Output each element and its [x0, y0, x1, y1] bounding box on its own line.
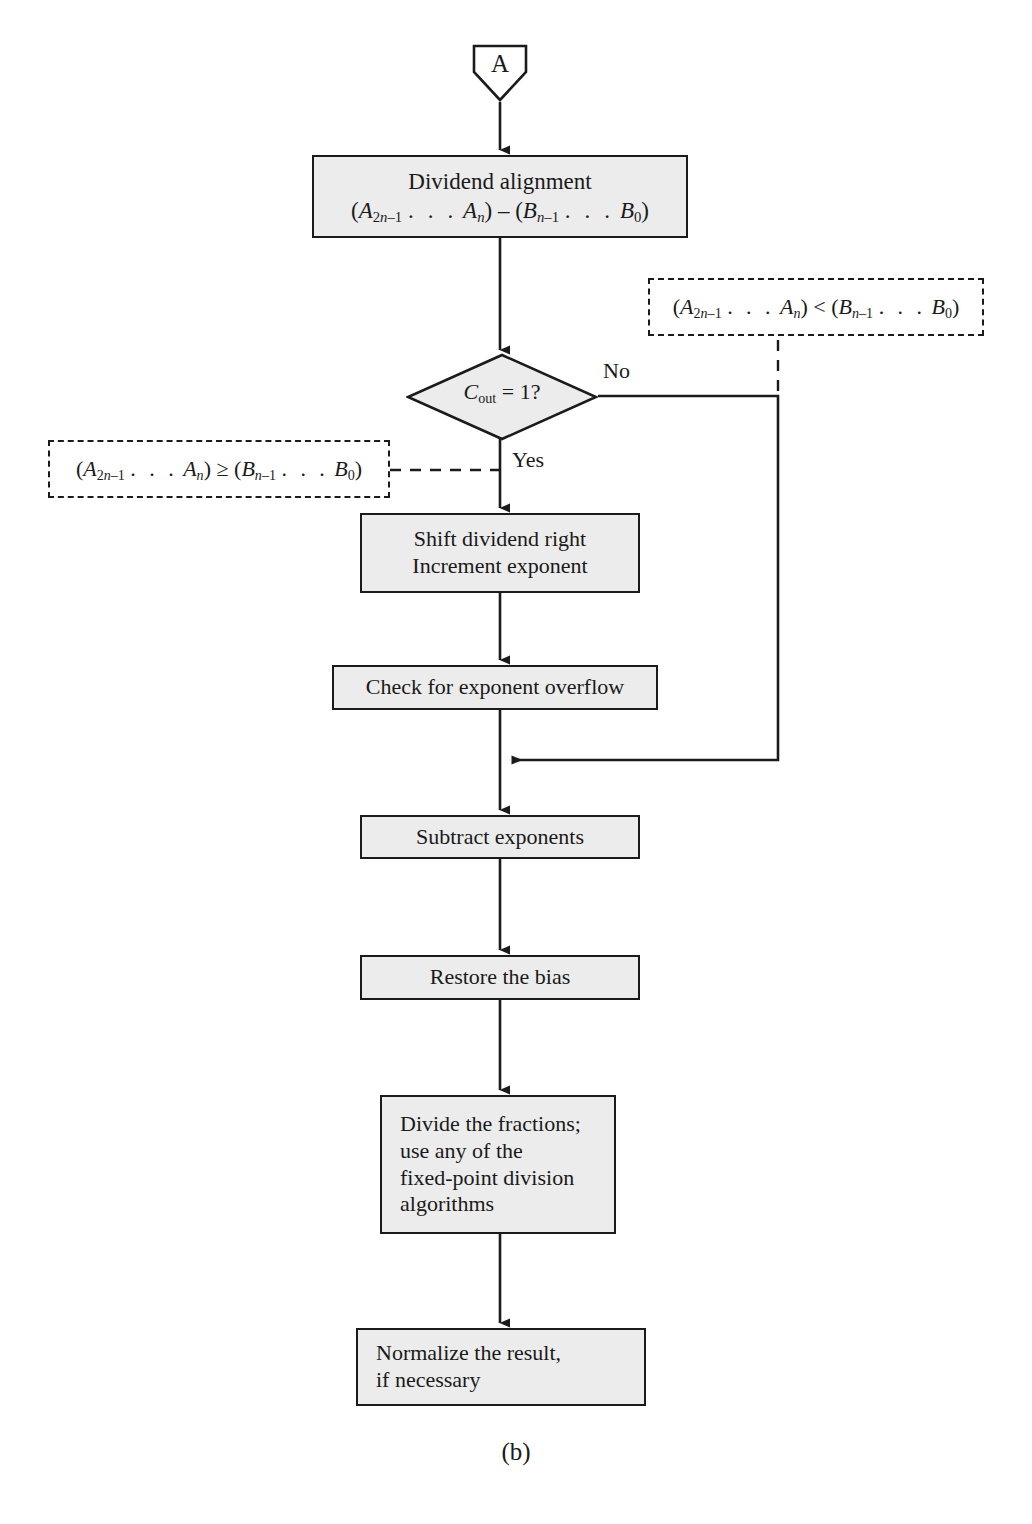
edge-label-yes: Yes [512, 447, 544, 473]
node-shift-dividend-line-2: Increment exponent [412, 553, 587, 580]
callout-condition-less-than-text: (A2n–1 . . . An) < (Bn–1 . . . B0) [673, 294, 960, 320]
node-check-overflow-label: Check for exponent overflow [366, 674, 624, 701]
node-divide-fractions-line-4: algorithms [400, 1191, 494, 1218]
figure-caption: (b) [0, 1438, 1032, 1466]
node-normalize-result-line-2: if necessary [376, 1367, 480, 1394]
connector-a[interactable]: A [472, 44, 528, 102]
node-dividend-alignment-line-1: Dividend alignment [408, 168, 591, 196]
node-check-overflow[interactable]: Check for exponent overflow [332, 665, 658, 710]
connector-a-label: A [472, 50, 528, 78]
node-shift-dividend-line-1: Shift dividend right [414, 526, 586, 553]
node-restore-bias-label: Restore the bias [430, 964, 571, 991]
node-restore-bias[interactable]: Restore the bias [360, 955, 640, 1000]
callout-condition-less-than: (A2n–1 . . . An) < (Bn–1 . . . B0) [648, 278, 984, 336]
node-normalize-result-line-1: Normalize the result, [376, 1340, 561, 1367]
node-dividend-alignment-line-2: (A2n–1 . . . An) – (Bn–1 . . . B0) [351, 197, 649, 225]
node-cout-decision[interactable]: Cout = 1? [406, 353, 598, 441]
node-divide-fractions-line-2: use any of the [400, 1138, 523, 1165]
node-dividend-alignment[interactable]: Dividend alignment (A2n–1 . . . An) – (B… [312, 155, 688, 238]
callout-condition-greater-equal-text: (A2n–1 . . . An) ≥ (Bn–1 . . . B0) [76, 456, 362, 482]
node-divide-fractions[interactable]: Divide the fractions; use any of the fix… [380, 1095, 616, 1234]
callout-condition-greater-equal: (A2n–1 . . . An) ≥ (Bn–1 . . . B0) [48, 440, 390, 498]
node-shift-dividend[interactable]: Shift dividend right Increment exponent [360, 513, 640, 593]
node-normalize-result[interactable]: Normalize the result, if necessary [356, 1328, 646, 1406]
node-divide-fractions-line-3: fixed-point division [400, 1165, 574, 1192]
node-subtract-exponents-label: Subtract exponents [416, 824, 584, 851]
edge-label-no: No [603, 358, 630, 384]
node-cout-decision-label: Cout = 1? [406, 379, 598, 405]
node-subtract-exponents[interactable]: Subtract exponents [360, 815, 640, 859]
figure-canvas: A Dividend alignment (A2n–1 . . . An) – … [0, 0, 1032, 1524]
node-divide-fractions-line-1: Divide the fractions; [400, 1111, 581, 1138]
